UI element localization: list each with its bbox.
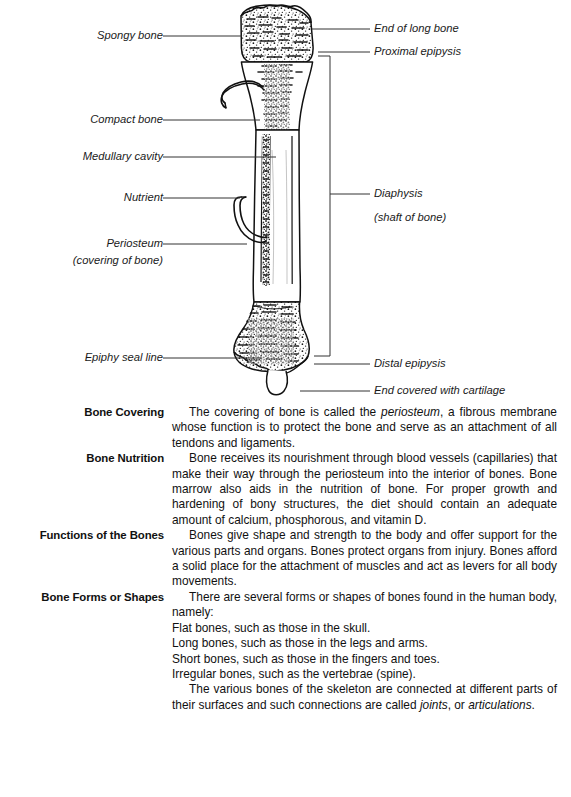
body-text: Bone CoveringThe covering of bone is cal… [0,405,571,797]
section-body-bone-forms-or-shapes: There are several forms or shapes of bon… [172,590,571,713]
section-functions-of-the-bones: Functions of the BonesBones give shape a… [0,528,571,590]
bone-proximal-epiphysis [241,5,313,62]
section-body-bone-covering: The covering of bone is called the perio… [172,405,571,451]
section-heading-bone-nutrition: Bone Nutrition [0,451,172,466]
label-periosteum: Periosteum [40,237,163,250]
section-row: Bone Forms or ShapesThere are several fo… [0,590,571,713]
emphasis-text: periosteum [381,405,440,419]
paragraph: Long bones, such as those in the legs an… [172,636,557,651]
diaphysis-bracket [314,56,370,356]
section-heading-bone-covering: Bone Covering [0,405,172,420]
label-spongy-bone: Spongy bone [40,29,163,42]
paragraph: Short bones, such as those in the finger… [172,652,557,667]
text-run: There are several forms or shapes of bon… [172,590,557,619]
long-bone-diagram: Spongy bone Compact bone Medullary cavit… [0,0,571,400]
section-row: Bone NutritionBone receives its nourishm… [0,451,571,528]
paragraph: Bones give shape and strength to the bod… [172,528,557,590]
bone-diaphysis-shaft [253,130,300,302]
section-row: Bone CoveringThe covering of bone is cal… [0,405,571,451]
label-epiphy-seal-line: Epiphy seal line [30,351,163,364]
paragraph: The covering of bone is called the perio… [172,405,557,451]
text-run: Long bones, such as those in the legs an… [172,636,428,650]
section-heading-bone-forms-or-shapes: Bone Forms or Shapes [0,590,172,605]
text-run: Irregular bones, such as the vertebrae (… [172,667,416,681]
section-row: Functions of the BonesBones give shape a… [0,528,571,590]
label-end-covered-with-cartilage: End covered with cartilage [374,384,505,397]
paragraph: The various bones of the skeleton are co… [172,682,557,713]
section-body-bone-nutrition: Bone receives its nourishment through bl… [172,451,571,528]
label-proximal-epipysis: Proximal epipysis [374,45,461,58]
text-run: Bone receives its nourishment through bl… [172,451,557,527]
text-run: Flat bones, such as those in the skull. [172,621,370,635]
label-medullary-cavity: Medullary cavity [30,150,163,163]
section-bone-covering: Bone CoveringThe covering of bone is cal… [0,405,571,451]
label-periosteum-sublabel: (covering of bone) [24,254,163,267]
text-run: Bones give shape and strength to the bod… [172,528,557,588]
bone-distal-epiphysis [234,302,309,395]
paragraph: There are several forms or shapes of bon… [172,590,557,621]
label-nutrient: Nutrient [40,191,163,204]
label-diaphysis: Diaphysis [374,187,423,200]
emphasis-text: joints [420,698,448,712]
sections-host: Bone CoveringThe covering of bone is cal… [0,405,571,713]
text-run: The covering of bone is called the [189,405,381,419]
paragraph: Irregular bones, such as the vertebrae (… [172,667,557,682]
label-compact-bone: Compact bone [40,113,163,126]
leader-lines-right [300,29,370,391]
paragraph: Flat bones, such as those in the skull. [172,621,557,636]
section-bone-nutrition: Bone NutritionBone receives its nourishm… [0,451,571,528]
label-distal-epipysis: Distal epipysis [374,357,446,370]
text-run: . [532,698,535,712]
label-end-of-long-bone: End of long bone [374,22,459,35]
emphasis-text: articulations [468,698,531,712]
text-run: , or [448,698,468,712]
section-body-functions-of-the-bones: Bones give shape and strength to the bod… [172,528,571,590]
text-run: Short bones, such as those in the finger… [172,652,440,666]
section-bone-forms-or-shapes: Bone Forms or ShapesThere are several fo… [0,590,571,713]
paragraph: Bone receives its nourishment through bl… [172,451,557,528]
label-diaphysis-sublabel: (shaft of bone) [374,211,446,224]
section-heading-functions-of-the-bones: Functions of the Bones [0,528,172,543]
